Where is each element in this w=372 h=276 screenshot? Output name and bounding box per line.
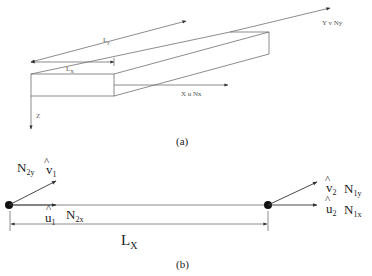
label-ly: Ly [103,36,110,45]
label-v1: v1 [46,162,57,179]
label-u1: u1 [45,210,56,227]
label-n2y: N2y [17,160,34,177]
node2-v-vector [268,182,317,205]
z-axis: Z [31,96,40,129]
figure-a-plate [31,32,269,96]
caption-a: (a) [176,135,189,148]
z-axis-label: Z [36,112,40,120]
x-axis-label: X u Nx [181,90,202,98]
label-n1x: N1x [344,202,361,219]
label-lx-b: LX [121,232,138,251]
label-lx: LX [66,65,74,74]
plate-top-right-edge [114,32,269,74]
y-axis: Y v Ny [230,8,343,32]
plate-top-left-edge [31,32,230,74]
plate-front-face [31,74,114,96]
label-n2x: N2x [66,207,83,224]
dimension-ly: Ly [31,21,186,62]
label-n1y: N1y [344,181,361,198]
caption-b: (b) [176,258,189,271]
beam-diagram: Ly LX X u Nx Y v Ny Z (a) N2y [0,0,372,276]
label-u2: u2 [326,201,337,218]
y-axis-label: Y v Ny [322,19,343,27]
